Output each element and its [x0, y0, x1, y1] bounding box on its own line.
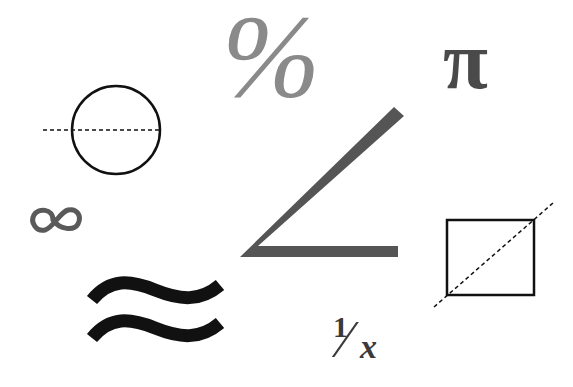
- angle-icon: [240, 107, 404, 257]
- reciprocal-denominator: x: [360, 330, 377, 364]
- circle-with-diameter-icon: [43, 86, 160, 174]
- infinity-icon: [33, 210, 80, 231]
- pi-icon: π: [443, 20, 488, 102]
- percent-icon: %: [222, 0, 314, 116]
- approximately-equal-icon: [92, 283, 220, 338]
- math-symbols-canvas: % π 1 ⁄ x: [0, 0, 573, 387]
- reciprocal-slash: ⁄: [341, 314, 350, 366]
- square-with-diagonal-icon: [434, 203, 553, 307]
